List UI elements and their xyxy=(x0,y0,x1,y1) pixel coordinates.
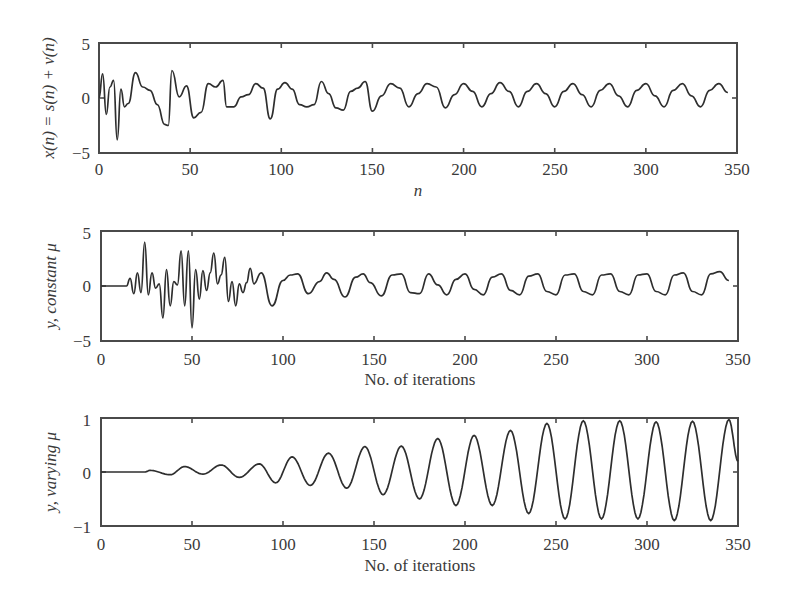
ytick-label: 5 xyxy=(82,35,91,54)
chart-figure: 5 0 −5 0 50 100 150 200 250 300 350 n x(… xyxy=(0,0,791,604)
subplot-varying-mu: 1 0 −1 0 50 100 150 200 250 300 350 No. … xyxy=(41,411,751,575)
plot-area-1 xyxy=(99,43,737,153)
tick-marks-2 xyxy=(101,231,738,341)
xtick-label: 0 xyxy=(97,535,106,554)
xtick-label: 350 xyxy=(724,160,750,179)
subplot-noisy-signal: 5 0 −5 0 50 100 150 200 250 300 350 n x(… xyxy=(39,35,750,200)
output-line-constant-mu xyxy=(101,242,729,328)
plot-area-2 xyxy=(101,231,738,341)
ytick-label: 0 xyxy=(82,89,91,108)
xaxis-label-3: No. of iterations xyxy=(365,556,476,575)
ytick-label: −1 xyxy=(73,518,91,537)
xtick-label: 300 xyxy=(633,160,659,179)
xtick-label: 250 xyxy=(543,350,569,369)
ytick-label: −5 xyxy=(72,144,90,163)
xtick-label: 100 xyxy=(270,350,296,369)
yaxis-label-3-text: y, varying μ xyxy=(41,432,60,514)
xtick-label: 250 xyxy=(543,535,569,554)
output-line-varying-mu xyxy=(101,420,738,521)
xtick-label: 150 xyxy=(359,160,385,179)
xtick-label: 150 xyxy=(361,350,387,369)
ytick-label: 1 xyxy=(83,411,92,430)
xtick-label: 350 xyxy=(725,350,751,369)
tick-marks-1 xyxy=(99,43,737,153)
xtick-label: 50 xyxy=(184,350,201,369)
xtick-label: 200 xyxy=(451,160,477,179)
ytick-label: 0 xyxy=(83,464,92,483)
xtick-label: 250 xyxy=(542,160,568,179)
yaxis-label-3: y, varying μ xyxy=(41,432,60,514)
yaxis-label-1: x(n) = s(n) + v(n) xyxy=(39,37,58,159)
xtick-label: 300 xyxy=(634,535,660,554)
xtick-labels-2: 0 50 100 150 200 250 300 350 xyxy=(97,350,751,369)
yaxis-label-2: y, constant μ xyxy=(41,243,60,331)
xtick-label: 200 xyxy=(452,535,478,554)
xtick-label: 0 xyxy=(95,160,104,179)
xtick-labels-3: 0 50 100 150 200 250 300 350 xyxy=(97,535,751,554)
subplot-constant-mu: 5 0 −5 0 50 100 150 200 250 300 350 No. … xyxy=(41,224,751,389)
xtick-label: 50 xyxy=(182,160,199,179)
xtick-label: 50 xyxy=(184,535,201,554)
xtick-label: 150 xyxy=(361,535,387,554)
xtick-labels-1: 0 50 100 150 200 250 300 350 xyxy=(95,160,750,179)
xtick-label: 100 xyxy=(270,535,296,554)
xtick-label: 200 xyxy=(452,350,478,369)
ytick-label: 5 xyxy=(83,224,92,243)
xtick-label: 300 xyxy=(634,350,660,369)
ytick-label: 0 xyxy=(83,277,92,296)
xaxis-label-1: n xyxy=(414,181,423,200)
yaxis-label-2-text: y, constant μ xyxy=(41,243,60,331)
ytick-label: −5 xyxy=(73,332,91,351)
signal-line-xn xyxy=(99,71,728,140)
xtick-label: 350 xyxy=(725,535,751,554)
xtick-label: 0 xyxy=(97,350,106,369)
xaxis-label-2: No. of iterations xyxy=(365,370,476,389)
xtick-label: 100 xyxy=(268,160,294,179)
